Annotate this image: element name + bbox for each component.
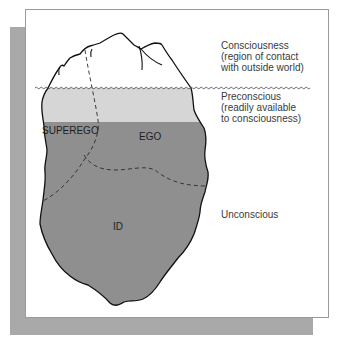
label-consciousness: Consciousness (region of contact with ou… xyxy=(221,40,304,73)
label-preconscious-line-2: (readily available xyxy=(221,102,301,113)
label-preconscious-line-3: to consciousness) xyxy=(221,113,301,124)
label-consciousness-line-1: Consciousness xyxy=(221,40,304,51)
label-unconscious: Unconscious xyxy=(221,209,278,220)
label-id: ID xyxy=(113,221,123,232)
label-ego: EGO xyxy=(139,131,161,142)
label-consciousness-line-2: (region of contact xyxy=(221,51,304,62)
label-superego: SUPEREGO xyxy=(42,125,99,136)
diagram-stage: Consciousness (region of contact with ou… xyxy=(0,0,340,342)
label-preconscious-line-1: Preconscious xyxy=(221,91,301,102)
label-consciousness-line-3: with outside world) xyxy=(221,62,304,73)
label-preconscious: Preconscious (readily available to consc… xyxy=(221,91,301,124)
label-unconscious-line-1: Unconscious xyxy=(221,209,278,220)
unconscious-region xyxy=(0,122,340,342)
